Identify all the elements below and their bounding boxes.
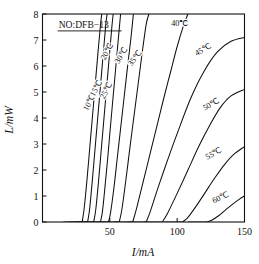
x-tick-label: 50	[105, 226, 115, 237]
y-tick-label: 4	[34, 113, 39, 124]
curve-label-45c: 45℃	[193, 41, 212, 57]
curve-10c	[82, 14, 102, 222]
curve-label-20c: 20℃	[99, 42, 115, 61]
y-tick-label: 1	[34, 191, 39, 202]
curve-45c	[146, 37, 244, 222]
y-axis-ticks: 012345678	[34, 9, 47, 228]
x-axis-label: I/mA	[131, 246, 155, 258]
curve-label-55c: 55℃	[204, 145, 223, 161]
y-tick-label: 3	[34, 139, 39, 150]
curve-label-40c: 40℃	[171, 19, 188, 28]
curve-label-group: 10℃10℃15℃15℃20℃20℃25℃25℃30℃30℃35℃35℃40℃4…	[81, 19, 230, 206]
li-curve-chart: 50100150 012345678 10℃10℃15℃15℃20℃20℃25℃…	[0, 0, 259, 264]
y-tick-label: 7	[34, 35, 39, 46]
y-tick-label: 0	[34, 217, 39, 228]
curve-40c	[133, 14, 188, 222]
y-tick-label: 5	[34, 87, 39, 98]
curve-group	[63, 14, 244, 222]
x-tick-label: 100	[170, 226, 185, 237]
y-tick-label: 2	[34, 165, 39, 176]
y-tick-label: 8	[34, 9, 39, 20]
x-tick-label: 150	[237, 226, 252, 237]
figure-container: 50100150 012345678 10℃10℃15℃15℃20℃20℃25℃…	[0, 0, 259, 264]
curve-35c	[119, 14, 149, 222]
device-id-annotation: NO:DFB−13	[59, 19, 109, 30]
y-axis-label: L/mW	[3, 105, 15, 135]
curve-label-50c: 50℃	[201, 96, 220, 113]
y-tick-label: 6	[34, 61, 39, 72]
curve-label-60c: 60℃	[211, 190, 230, 205]
x-axis-ticks: 50100150	[105, 218, 252, 237]
